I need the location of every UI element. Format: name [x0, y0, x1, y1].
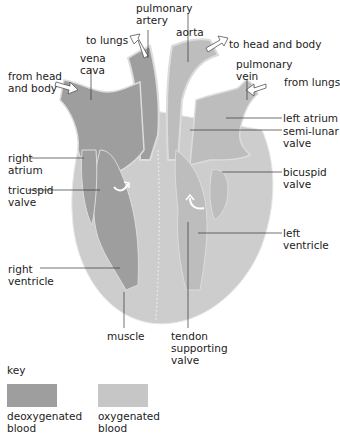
label-tendon-supporting-valve: tendon supporting valve	[171, 330, 228, 366]
swatch-oxygenated	[98, 384, 148, 407]
label-bicuspid-valve: bicuspid valve	[283, 166, 327, 190]
label-left-ventricle: left ventricle	[283, 227, 329, 251]
key-title: key	[7, 364, 25, 376]
key-label-deoxygenated: deoxygenated blood	[7, 410, 82, 434]
label-from-head-and-body: from head and body	[8, 70, 62, 94]
label-tricuspid-valve: tricuspid valve	[8, 184, 54, 208]
label-pulmonary-artery: pulmonary artery	[136, 2, 193, 26]
label-from-lungs: from lungs	[284, 76, 340, 88]
swatch-deoxygenated	[7, 384, 57, 407]
label-aorta: aorta	[176, 26, 204, 38]
left-atrium-shape	[190, 80, 258, 165]
label-right-atrium: right atrium	[8, 152, 43, 176]
label-muscle: muscle	[107, 330, 145, 342]
label-left-atrium: left atrium	[283, 112, 338, 124]
label-vena-cava: vena cava	[80, 52, 106, 76]
key-label-oxygenated: oxygenated blood	[98, 410, 160, 434]
label-to-lungs: to lungs	[86, 34, 128, 46]
label-semi-lunar-valve: semi-lunar valve	[283, 125, 339, 149]
label-right-ventricle: right ventricle	[8, 263, 54, 287]
label-to-head-and-body: to head and body	[229, 38, 322, 50]
